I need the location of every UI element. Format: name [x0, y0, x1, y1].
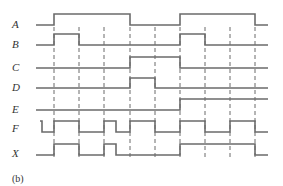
waveform-c	[36, 57, 268, 68]
waveform-x	[36, 144, 268, 155]
signal-label-f: F	[11, 122, 19, 134]
signal-label-a: A	[11, 18, 19, 30]
waveform-b	[36, 34, 268, 45]
signal-waveforms	[36, 14, 268, 155]
timing-diagram: ABCDEFX (b)	[0, 0, 283, 186]
signal-label-d: D	[11, 81, 20, 93]
signal-label-x: X	[11, 147, 20, 159]
signal-label-b: B	[12, 38, 19, 50]
signal-label-e: E	[11, 103, 19, 115]
figure-caption: (b)	[12, 173, 24, 185]
waveform-e	[36, 99, 268, 110]
signal-label-c: C	[12, 61, 20, 73]
time-marker-lines	[54, 27, 255, 160]
waveform-f	[40, 121, 268, 132]
signal-labels: ABCDEFX	[11, 18, 20, 159]
waveform-a	[36, 14, 268, 25]
waveform-d	[36, 78, 268, 88]
